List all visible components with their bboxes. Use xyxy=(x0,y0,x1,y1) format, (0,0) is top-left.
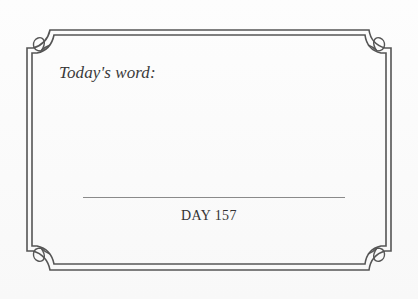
word-writing-line xyxy=(83,197,345,198)
decorative-frame xyxy=(0,0,418,299)
todays-word-label: Today's word: xyxy=(59,63,156,83)
day-number-label: DAY 157 xyxy=(0,208,418,224)
word-card: Today's word: DAY 157 xyxy=(0,0,418,299)
